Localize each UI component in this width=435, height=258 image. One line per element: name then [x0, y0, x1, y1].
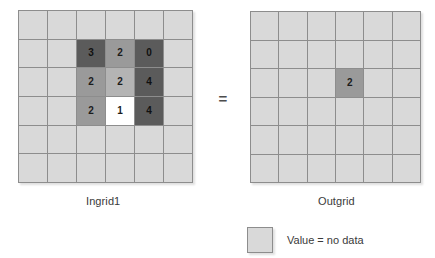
- grid-cell: [364, 126, 391, 154]
- grid-cell: 2: [77, 68, 105, 96]
- grid-cell: 2: [106, 68, 134, 96]
- grid-cell: [251, 155, 278, 183]
- grid-cell: [393, 12, 420, 40]
- grid-cell: [164, 126, 192, 154]
- grid-cell: 2: [336, 69, 363, 97]
- grid-cell: 1: [106, 97, 134, 125]
- grid-cell: [279, 126, 306, 154]
- grid-cell: [48, 97, 76, 125]
- grid-cell: [393, 41, 420, 69]
- grid-cell: [106, 11, 134, 39]
- raster-grid-outgrid: 2: [250, 11, 421, 183]
- grid-cell: 4: [135, 68, 163, 96]
- grid-cell: 2: [77, 97, 105, 125]
- grid-cell: [48, 126, 76, 154]
- grid-cell: [164, 68, 192, 96]
- grid-cell: [164, 40, 192, 68]
- grid-cell: [135, 126, 163, 154]
- grid-cell: [308, 41, 335, 69]
- grid-cell: [77, 11, 105, 39]
- grid-cell: [364, 41, 391, 69]
- grid-cell: [19, 97, 47, 125]
- grid-cell: [336, 98, 363, 126]
- grid-cell: [279, 12, 306, 40]
- grid-caption-outgrid: Outgrid: [318, 195, 355, 207]
- grid-cell: [251, 12, 278, 40]
- grid-cell: [308, 126, 335, 154]
- grid-cell: [279, 41, 306, 69]
- grid-cell: [336, 41, 363, 69]
- grid-cell: [19, 40, 47, 68]
- grid-cell: [164, 154, 192, 182]
- grid-cell: [106, 126, 134, 154]
- grid-cell: [364, 98, 391, 126]
- grid-cell: [48, 154, 76, 182]
- grid-caption-ingrid1: Ingrid1: [86, 195, 120, 207]
- grid-cell: [364, 69, 391, 97]
- grid-cell: [308, 69, 335, 97]
- grid-cell: [164, 97, 192, 125]
- grid-cell: [336, 155, 363, 183]
- grid-cell: [279, 69, 306, 97]
- legend: Value = no data: [247, 227, 364, 253]
- grid-cell: 4: [135, 97, 163, 125]
- grid-cell: [393, 69, 420, 97]
- grid-cell: [19, 126, 47, 154]
- grid-cell: [48, 68, 76, 96]
- grid-cell: 0: [135, 40, 163, 68]
- figure-canvas: 320224214 = 2 Ingrid1 Outgrid Value = no…: [0, 0, 435, 258]
- grid-cell: [251, 41, 278, 69]
- grid-cell: [19, 11, 47, 39]
- grid-cell: [336, 12, 363, 40]
- grid-cell: [48, 40, 76, 68]
- grid-cell: [393, 126, 420, 154]
- grid-cell: [393, 155, 420, 183]
- grid-cell: [164, 11, 192, 39]
- grid-cell: [336, 126, 363, 154]
- grid-cell: [77, 154, 105, 182]
- grid-cell: [106, 154, 134, 182]
- grid-cell: 3: [77, 40, 105, 68]
- grid-cell: [364, 12, 391, 40]
- grid-cell: [364, 155, 391, 183]
- grid-cell: [251, 126, 278, 154]
- grid-cell: [279, 98, 306, 126]
- grid-cell: [308, 12, 335, 40]
- grid-cell: [308, 98, 335, 126]
- grid-cell: [251, 98, 278, 126]
- grid-cell: [19, 68, 47, 96]
- raster-grid-ingrid1: 320224214: [18, 10, 193, 183]
- grid-cell: [393, 98, 420, 126]
- grid-cell: [251, 69, 278, 97]
- equals-operator: =: [210, 88, 236, 108]
- grid-cell: [77, 126, 105, 154]
- grid-cell: [135, 11, 163, 39]
- grid-cell: [135, 154, 163, 182]
- grid-cell: [308, 155, 335, 183]
- legend-label-no-data: Value = no data: [287, 234, 364, 246]
- grid-cell: [19, 154, 47, 182]
- grid-cell: [279, 155, 306, 183]
- grid-cell: [48, 11, 76, 39]
- grid-cell: 2: [106, 40, 134, 68]
- legend-swatch-no-data: [247, 227, 273, 253]
